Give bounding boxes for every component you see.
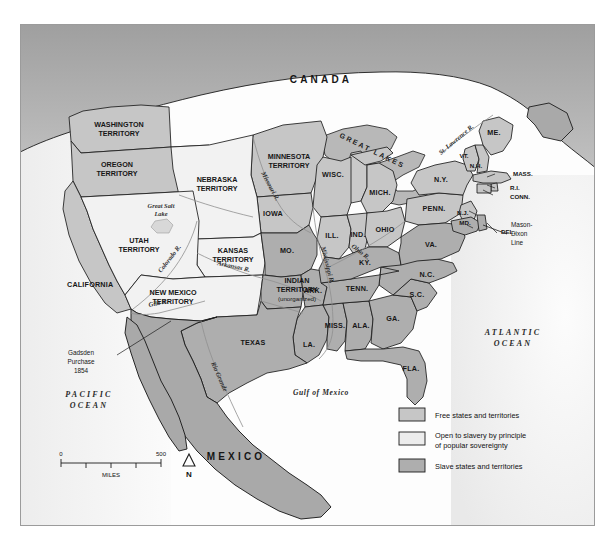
label-territory-indian-line2: TERRITORY <box>276 285 317 294</box>
label-territory-nebraska-line2: TERRITORY <box>196 184 237 193</box>
label-state-north-carolina: N.C. <box>419 270 434 279</box>
legend-swatch-popular-sovereignty <box>399 432 425 445</box>
label-state-virginia: VA. <box>425 240 437 249</box>
label-state-missouri: MO. <box>280 246 294 255</box>
label-state-iowa: IOWA <box>263 209 283 218</box>
label-territory-indian-line1: INDIAN <box>285 276 310 285</box>
label-gadsden-purchase-line1: Gadsden <box>68 349 94 356</box>
label-state-maine: ME. <box>487 128 500 137</box>
label-territory-oregon-line2: TERRITORY <box>96 169 137 178</box>
label-state-rhode-island: R.I. <box>510 184 520 191</box>
map-screenshot: CANADA MEXICO PACIFIC OCEAN ATLANTIC OCE… <box>0 0 615 552</box>
legend-label-free: Free states and territories <box>435 411 520 420</box>
label-territory-kansas-line1: KANSAS <box>218 246 249 255</box>
label-state-michigan: MICH. <box>369 188 390 197</box>
label-territory-minnesota-line1: MINNESOTA <box>268 152 311 161</box>
label-great-salt-lake-line1: Great Salt <box>148 202 175 209</box>
label-ocean-atlantic-line2: OCEAN <box>494 339 533 348</box>
label-territory-new-mexico-line1: NEW MEXICO <box>149 288 197 297</box>
label-territory-indian-line3: (unorganized) <box>278 295 316 302</box>
map-frame: CANADA MEXICO PACIFIC OCEAN ATLANTIC OCE… <box>20 24 595 526</box>
label-territory-washington-line2: TERRITORY <box>98 129 139 138</box>
label-state-mississippi: MISS. <box>325 321 346 330</box>
legend-swatch-free <box>399 408 425 421</box>
legend-swatch-slave <box>399 459 425 472</box>
label-state-massachusetts: MASS. <box>513 170 533 177</box>
label-territory-oregon-line1: OREGON <box>101 160 133 169</box>
label-country-mexico: MEXICO <box>207 451 266 462</box>
label-gadsden-purchase-line3: 1854 <box>74 367 89 374</box>
region-delaware <box>477 215 487 231</box>
label-state-texas: TEXAS <box>241 338 266 347</box>
label-state-new-york: N.Y. <box>434 175 448 184</box>
label-ocean-pacific-line2: OCEAN <box>70 401 109 410</box>
label-gulf-of-mexico: Gulf of Mexico <box>293 388 349 397</box>
label-ocean-pacific-line1: PACIFIC <box>65 390 112 399</box>
label-state-louisiana: LA. <box>303 340 315 349</box>
scale-label-units: MILES <box>102 472 120 478</box>
label-mason-dixon-line1: Mason- <box>511 221 532 228</box>
label-country-canada: CANADA <box>290 74 353 85</box>
label-state-new-jersey: N.J. <box>457 209 469 216</box>
label-territory-utah-line1: UTAH <box>129 236 148 245</box>
legend-label-popular-sovereignty-line2: of popular sovereignty <box>435 441 508 450</box>
label-mason-dixon-line2: Dixon <box>511 230 528 237</box>
label-state-kentucky: KY. <box>359 258 371 267</box>
label-state-pennsylvania: PENN. <box>423 204 446 213</box>
label-state-georgia: GA. <box>386 314 399 323</box>
label-state-wisconsin: WISC. <box>322 170 344 179</box>
north-arrow-label: N <box>186 470 192 479</box>
label-state-connecticut: CONN. <box>510 193 530 200</box>
historical-map-graphic: CANADA MEXICO PACIFIC OCEAN ATLANTIC OCE… <box>21 25 594 525</box>
label-state-illinois: ILL. <box>325 231 339 240</box>
label-territory-utah-line2: TERRITORY <box>118 245 159 254</box>
label-great-salt-lake-line2: Lake <box>153 210 167 217</box>
label-state-tennessee: TENN. <box>346 284 369 293</box>
scale-label-max: 500 <box>156 451 167 457</box>
label-state-south-carolina: S.C. <box>410 290 425 299</box>
label-territory-minnesota-line2: TERRITORY <box>268 161 309 170</box>
label-mason-dixon-line3: Line <box>511 239 524 246</box>
legend-label-slave: Slave states and territories <box>435 462 523 471</box>
label-state-indiana: IND. <box>350 230 365 239</box>
label-state-florida: FLA. <box>403 364 420 373</box>
label-territory-washington-line1: WASHINGTON <box>94 120 143 129</box>
label-state-new-hampshire: N.H. <box>470 162 483 169</box>
label-gadsden-purchase-line2: Purchase <box>68 358 95 365</box>
label-state-ohio: OHIO <box>375 225 394 234</box>
label-territory-nebraska-line1: NEBRASKA <box>197 175 238 184</box>
label-state-maryland: MD. <box>459 219 471 226</box>
label-state-california: CALIFORNIA <box>67 280 113 289</box>
label-state-alabama: ALA. <box>352 321 370 330</box>
label-ocean-atlantic-line1: ATLANTIC <box>484 328 542 337</box>
legend-label-popular-sovereignty-line1: Open to slavery by principle <box>435 431 526 440</box>
region-wisconsin <box>313 157 351 217</box>
label-state-vermont: VT. <box>460 152 469 159</box>
